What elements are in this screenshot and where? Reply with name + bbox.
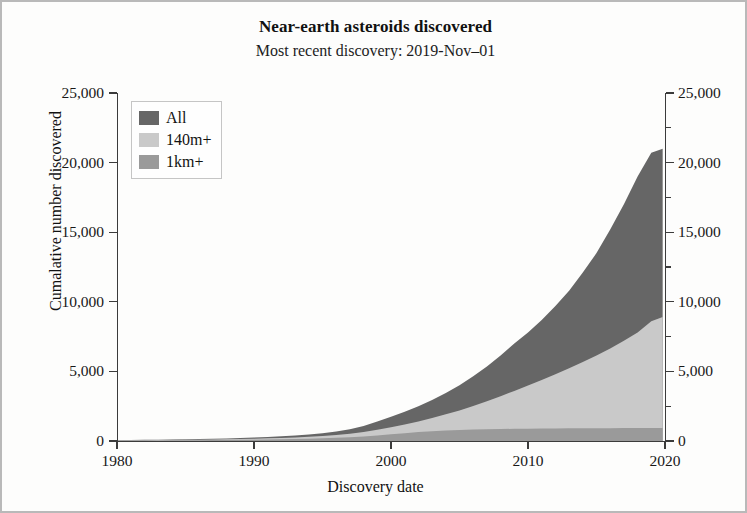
y-axis-left-line	[117, 93, 118, 441]
legend-item-all[interactable]: All	[139, 107, 211, 128]
y-axis-right-tick-label: 10,000	[678, 294, 747, 310]
x-axis-tick-label: 2020	[620, 452, 710, 470]
y-axis-right-tick-label: 20,000	[678, 155, 747, 171]
legend-label-all: All	[166, 109, 186, 127]
y-axis-left-tick-label: 0	[18, 433, 104, 449]
x-axis-tick	[664, 441, 665, 449]
legend: All 140m+ 1km+	[131, 101, 222, 179]
x-axis-tick	[253, 441, 254, 449]
x-axis-title: Discovery date	[2, 478, 747, 496]
y-axis-left-tick	[109, 92, 117, 93]
legend-item-1km[interactable]: 1km+	[139, 151, 211, 172]
legend-item-140m[interactable]: 140m+	[139, 129, 211, 150]
y-axis-left-tick-label: 5,000	[18, 363, 104, 379]
y-axis-left-tick	[109, 162, 117, 163]
y-axis-right-tick-label: 15,000	[678, 224, 747, 240]
chart-figure: Near-earth asteroids discovered Most rec…	[0, 0, 747, 513]
x-axis-tick-label: 1980	[72, 452, 162, 470]
x-axis-tick	[527, 441, 528, 449]
y-axis-right-tick	[666, 301, 674, 302]
y-axis-right-tick-label: 5,000	[678, 363, 747, 379]
legend-label-140m: 140m+	[166, 131, 211, 149]
x-axis-tick-label: 2010	[483, 452, 573, 470]
y-axis-right-tick	[666, 92, 674, 93]
x-axis-tick-label: 2000	[346, 452, 436, 470]
title-block: Near-earth asteroids discovered Most rec…	[2, 16, 747, 62]
chart-subtitle: Most recent discovery: 2019-Nov–01	[2, 40, 747, 62]
x-axis-tick	[116, 441, 117, 449]
legend-label-1km: 1km+	[166, 153, 203, 171]
page-title: Near-earth asteroids discovered	[2, 16, 747, 38]
y-axis-right-tick	[666, 371, 674, 372]
y-axis-right-minor-tick	[666, 266, 671, 267]
y-axis-right-minor-tick	[666, 197, 671, 198]
y-axis-right-tick	[666, 162, 674, 163]
y-axis-left-tick	[109, 232, 117, 233]
legend-swatch-140m-icon	[139, 133, 159, 147]
y-axis-left-tick	[109, 301, 117, 302]
y-axis-right-minor-tick	[666, 406, 671, 407]
y-axis-right-tick-label: 25,000	[678, 85, 747, 101]
y-axis-right-tick	[666, 440, 674, 441]
legend-swatch-1km-icon	[139, 155, 159, 169]
y-axis-title: Cumalative number discovered	[47, 61, 65, 361]
y-axis-right-minor-tick	[666, 127, 671, 128]
x-axis-tick	[390, 441, 391, 449]
y-axis-right-minor-tick	[666, 336, 671, 337]
y-axis-left-tick	[109, 371, 117, 372]
y-axis-right-tick	[666, 232, 674, 233]
x-axis-tick-label: 1990	[209, 452, 299, 470]
legend-swatch-all-icon	[139, 111, 159, 125]
y-axis-right-tick-label: 0	[678, 433, 747, 449]
